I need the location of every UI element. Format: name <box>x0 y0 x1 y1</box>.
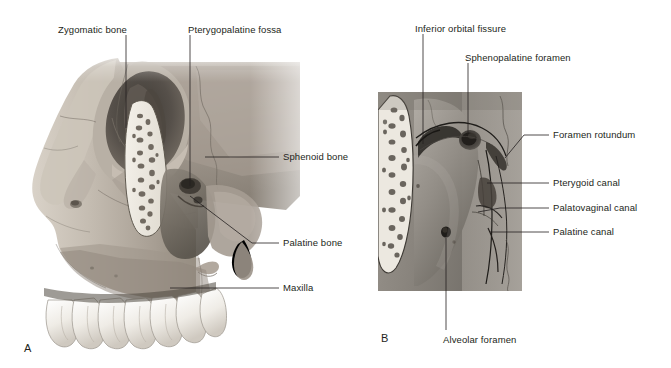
label-palatine-canal: Palatine canal <box>553 226 614 237</box>
panel-a-illustration <box>8 48 320 353</box>
label-palatovaginal-canal: Palatovaginal canal <box>553 202 637 213</box>
label-maxilla: Maxilla <box>283 282 313 293</box>
panel-letter-a: A <box>24 342 31 354</box>
panel-letter-b: B <box>381 332 388 344</box>
label-foramen-rotundum: Foramen rotundum <box>553 129 635 140</box>
label-palatine-bone: Palatine bone <box>283 237 342 248</box>
label-sphenoid-bone: Sphenoid bone <box>283 151 348 162</box>
label-pterygoid-canal: Pterygoid canal <box>553 177 620 188</box>
label-zygomatic-bone: Zygomatic bone <box>58 24 127 35</box>
label-inferior-orbital-fissure: Inferior orbital fissure <box>415 23 506 34</box>
label-alveolar-foramen: Alveolar foramen <box>443 334 516 345</box>
panel-b-illustration <box>378 92 522 291</box>
anatomy-figure: Zygomatic bone Pterygopalatine fossa Sph… <box>0 0 671 368</box>
label-pterygopalatine-fossa: Pterygopalatine fossa <box>188 24 281 35</box>
label-sphenopalatine-foramen: Sphenopalatine foramen <box>465 52 571 63</box>
